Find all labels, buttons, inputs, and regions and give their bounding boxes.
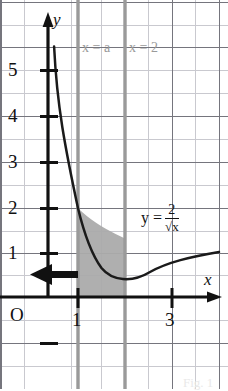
y-tick-label-4: 4 xyxy=(8,106,18,125)
y-tick-label-2: 2 xyxy=(8,198,18,217)
figure-caption: Fig. 1 xyxy=(183,375,213,391)
function-label-lhs: y = xyxy=(141,209,162,227)
label-x-equals-a: x = a xyxy=(82,40,110,56)
left-arrow-annotation xyxy=(30,264,78,285)
function-label-fraction: 2 √x xyxy=(165,203,179,233)
y-tick-label-3: 3 xyxy=(8,152,18,171)
origin-label: O xyxy=(10,305,24,324)
x-tick-label-1: 1 xyxy=(72,310,82,329)
function-denominator: √x xyxy=(165,218,179,233)
function-label: y = 2 √x xyxy=(141,203,179,233)
x-tick-label-3: 3 xyxy=(165,310,175,329)
function-numerator: 2 xyxy=(168,203,175,218)
y-axis-label: y xyxy=(53,11,61,28)
y-tick-label-5: 5 xyxy=(8,60,18,79)
y-tick-label-1: 1 xyxy=(8,243,18,262)
x-axis-label: x xyxy=(204,271,212,288)
label-x-equals-2: x = 2 xyxy=(129,40,158,56)
